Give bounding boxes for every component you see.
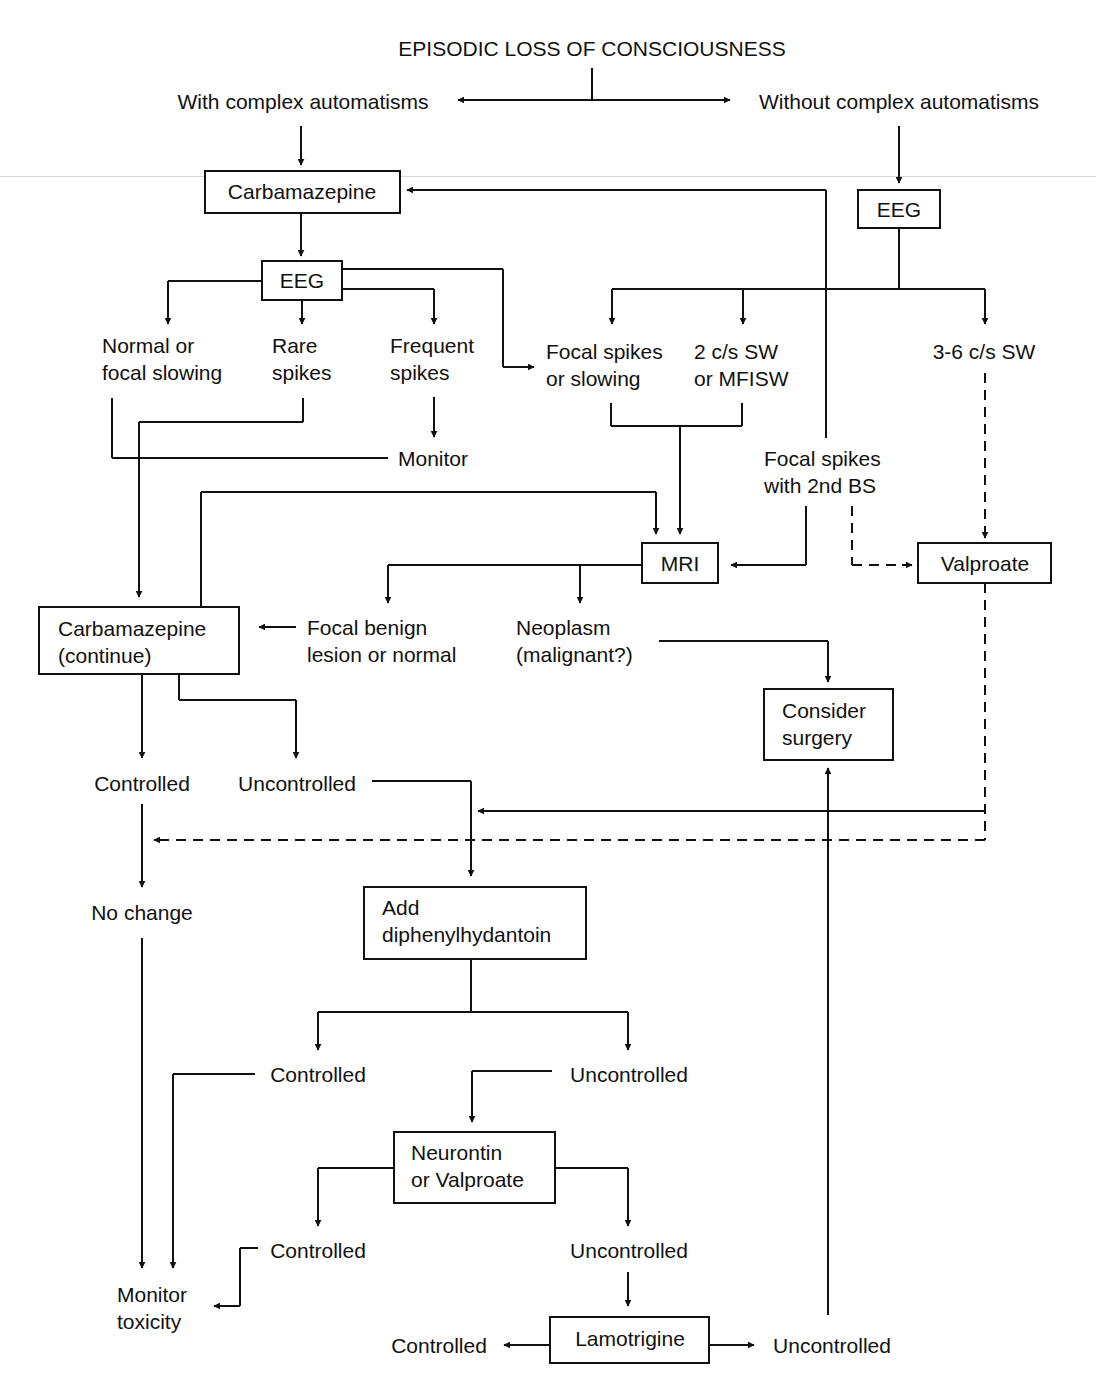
monitor-label: Monitor [398, 447, 468, 470]
neoplasm-line2: (malignant?) [516, 643, 633, 666]
uncontrolled-4: Uncontrolled [773, 1334, 891, 1357]
mri-label: MRI [661, 552, 700, 575]
focal-spikes-or-slowing: Focal spikes [546, 340, 663, 363]
carbamazepine-continue-label: Carbamazepine [58, 617, 206, 640]
controlled-1: Controlled [94, 772, 190, 795]
consider-surgery-label-line2: surgery [782, 726, 853, 749]
rare-spikes-line2: spikes [272, 361, 332, 384]
add-diphenylhydantoin-label: Add [382, 896, 419, 919]
neoplasm: Neoplasm [516, 616, 611, 639]
uncontrolled-2: Uncontrolled [570, 1063, 688, 1086]
focal-benign-lesion-line2: lesion or normal [307, 643, 456, 666]
controlled-3: Controlled [270, 1239, 366, 1262]
carbamazepine-label: Carbamazepine [228, 180, 376, 203]
neurontin-label: Neurontin [411, 1141, 502, 1164]
two-cs-sw-line2: or MFISW [694, 367, 789, 390]
eeg-left-label: EEG [280, 269, 324, 292]
add-diphenylhydantoin-label-line2: diphenylhydantoin [382, 923, 551, 946]
uncontrolled-3: Uncontrolled [570, 1239, 688, 1262]
monitor-toxicity-line2: toxicity [117, 1310, 182, 1333]
consider-surgery-label: Consider [782, 699, 866, 722]
focal-spikes-2nd-bs-line2: with 2nd BS [763, 474, 876, 497]
no-change: No change [91, 901, 193, 924]
normal-or-focal-slowing: Normal or [102, 334, 194, 357]
valproate-label: Valproate [941, 552, 1029, 575]
neurontin-label-line2: or Valproate [411, 1168, 524, 1191]
focal-spikes-or-slowing-line2: or slowing [546, 367, 641, 390]
focal-benign-lesion: Focal benign [307, 616, 427, 639]
controlled-4: Controlled [391, 1334, 487, 1357]
three-six-cs-sw: 3-6 c/s SW [933, 340, 1036, 363]
two-cs-sw: 2 c/s SW [694, 340, 778, 363]
normal-or-focal-slowing-line2: focal slowing [102, 361, 222, 384]
frequent-spikes: Frequent [390, 334, 474, 357]
rare-spikes: Rare [272, 334, 318, 357]
controlled-2: Controlled [270, 1063, 366, 1086]
eeg-right-label: EEG [877, 198, 921, 221]
frequent-spikes-line2: spikes [390, 361, 450, 384]
with-complex-automatisms: With complex automatisms [178, 90, 429, 113]
diagram-title: EPISODIC LOSS OF CONSCIOUSNESS [398, 37, 785, 60]
carbamazepine-continue-label-line2: (continue) [58, 644, 151, 667]
without-complex-automatisms: Without complex automatisms [759, 90, 1039, 113]
flowchart: EPISODIC LOSS OF CONSCIOUSNESS With comp… [0, 0, 1096, 1387]
lamotrigine-label: Lamotrigine [575, 1327, 685, 1350]
monitor-toxicity: Monitor [117, 1283, 187, 1306]
uncontrolled-1: Uncontrolled [238, 772, 356, 795]
focal-spikes-2nd-bs: Focal spikes [764, 447, 881, 470]
